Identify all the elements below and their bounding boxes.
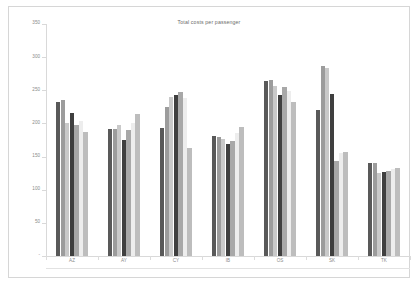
bar[interactable]	[108, 129, 112, 256]
category-separator	[98, 256, 99, 260]
y-axis-tick-label-text: 350	[14, 21, 40, 26]
bar[interactable]	[226, 144, 230, 256]
y-axis-tick-label-text: 150	[14, 154, 40, 159]
bar[interactable]	[269, 80, 273, 256]
category-separator	[150, 256, 151, 260]
bar-group	[160, 24, 191, 256]
axis-bottom-rule	[46, 268, 410, 269]
x-axis-line	[46, 256, 410, 257]
y-axis-tick-label-text: 200	[14, 121, 40, 126]
category-separator	[202, 256, 203, 260]
y-axis-tick-label-text: 250	[14, 88, 40, 93]
category-label-cy: CY	[150, 259, 202, 264]
bar[interactable]	[65, 123, 69, 256]
bar[interactable]	[273, 86, 277, 256]
bar[interactable]	[178, 92, 182, 256]
bar[interactable]	[56, 102, 60, 256]
bar[interactable]	[230, 141, 234, 256]
category-label-os: OS	[254, 259, 306, 264]
category-separator	[46, 256, 47, 260]
bar-group	[264, 24, 295, 256]
bar[interactable]	[169, 97, 173, 256]
bar-group	[212, 24, 243, 256]
bar[interactable]	[239, 127, 243, 256]
bar-group	[316, 24, 347, 256]
bar[interactable]	[316, 110, 320, 256]
bar[interactable]	[339, 153, 343, 256]
bar[interactable]	[117, 125, 121, 256]
bar[interactable]	[278, 95, 282, 256]
bar[interactable]	[212, 136, 216, 256]
bar[interactable]	[79, 121, 83, 256]
y-axis-tick-label-text: 100	[14, 187, 40, 192]
bar[interactable]	[391, 169, 395, 256]
bar[interactable]	[343, 152, 347, 256]
y-axis-tick-label-text: -	[14, 253, 40, 258]
bar[interactable]	[160, 128, 164, 256]
bar[interactable]	[325, 68, 329, 256]
bar[interactable]	[368, 163, 372, 256]
bar-group	[108, 24, 139, 256]
bar[interactable]	[187, 148, 191, 256]
bar[interactable]	[126, 130, 130, 256]
y-axis-tick-label: 200	[9, 121, 40, 127]
bar[interactable]	[113, 129, 117, 256]
plot-area	[46, 24, 410, 256]
bar[interactable]	[70, 113, 74, 256]
bar[interactable]	[122, 140, 126, 256]
bar-group	[368, 24, 399, 256]
bar[interactable]	[183, 98, 187, 256]
y-axis-tick-label: 100	[9, 187, 40, 193]
y-axis-tick-label: 250	[9, 88, 40, 94]
bar[interactable]	[287, 91, 291, 256]
y-axis-tick-label: -	[9, 253, 40, 259]
bar[interactable]	[235, 133, 239, 256]
category-separator	[254, 256, 255, 260]
chart-screenshot: Total costs per passenger -5010015020025…	[0, 0, 419, 286]
bar[interactable]	[291, 102, 295, 256]
category-label-ay: AY	[98, 259, 150, 264]
category-label-sk: SK	[306, 259, 358, 264]
bar-group	[56, 24, 87, 256]
bar[interactable]	[282, 87, 286, 256]
bar[interactable]	[386, 171, 390, 256]
bar[interactable]	[217, 137, 221, 256]
bar[interactable]	[330, 94, 334, 256]
bar[interactable]	[61, 100, 65, 256]
bar[interactable]	[382, 172, 386, 256]
y-axis-tick-label: 300	[9, 55, 40, 61]
bar[interactable]	[174, 95, 178, 256]
y-axis-tick-label-text: 50	[14, 220, 40, 225]
bar[interactable]	[83, 132, 87, 256]
bar[interactable]	[377, 173, 381, 256]
category-separator	[306, 256, 307, 260]
category-label-tk: TK	[358, 259, 410, 264]
y-axis-tick-label: 350	[9, 21, 40, 27]
category-separator	[410, 256, 411, 260]
bar[interactable]	[395, 168, 399, 256]
y-axis-tick-label: 150	[9, 154, 40, 160]
y-axis-tick-label: 50	[9, 220, 40, 226]
bar[interactable]	[135, 114, 139, 257]
bar[interactable]	[131, 123, 135, 256]
y-axis-tick-label-text: 300	[14, 55, 40, 60]
bar[interactable]	[321, 66, 325, 256]
category-separator	[358, 256, 359, 260]
bar[interactable]	[334, 161, 338, 256]
category-label-ib: IB	[202, 259, 254, 264]
bar[interactable]	[264, 81, 268, 256]
chart-frame: Total costs per passenger -5010015020025…	[8, 6, 410, 278]
category-label-az: AZ	[46, 259, 98, 264]
bar[interactable]	[373, 163, 377, 256]
bar[interactable]	[74, 125, 78, 256]
bar[interactable]	[221, 139, 225, 256]
bar[interactable]	[165, 107, 169, 256]
